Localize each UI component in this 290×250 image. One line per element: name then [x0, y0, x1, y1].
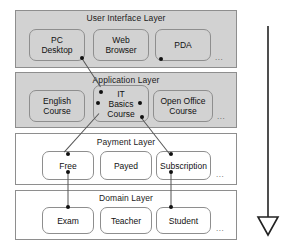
node-payed[interactable]: Payed — [100, 151, 152, 180]
ellipsis-domain-layer: ... — [216, 224, 224, 233]
node-web-browser[interactable]: Web Browser — [93, 29, 149, 61]
port-dot-exam — [66, 205, 70, 209]
port-dot-pda — [159, 57, 163, 61]
connector-subscription-to-student — [171, 173, 172, 207]
node-label-free: Free — [57, 161, 78, 171]
port-dot-pc-desktop — [80, 56, 84, 60]
node-open-office-course[interactable]: Open Office Course — [153, 90, 213, 122]
port-dot-free-bottom — [66, 170, 70, 174]
node-exam[interactable]: Exam — [42, 207, 94, 234]
node-label-exam: Exam — [55, 216, 81, 226]
port-dot-it-basics-top-left — [99, 90, 103, 94]
node-label-open-office-course: Open Office Course — [158, 96, 207, 116]
downward-direction-arrow — [250, 20, 290, 245]
node-student[interactable]: Student — [156, 207, 211, 234]
node-teacher[interactable]: Teacher — [100, 207, 152, 234]
layer-title-domain-layer: Domain Layer — [15, 193, 237, 203]
node-label-web-browser: Web Browser — [103, 35, 138, 55]
connector-free-to-exam — [68, 173, 69, 207]
architecture-diagram: User Interface Layer PC Desktop Web Brow… — [0, 0, 290, 250]
port-dot-student — [169, 205, 173, 209]
node-label-it-basics-course: IT Basics Course — [105, 89, 136, 119]
layer-title-payment-layer: Payment Layer — [15, 137, 237, 147]
port-dot-subscription-top — [169, 152, 173, 156]
port-dot-free-top — [66, 152, 70, 156]
node-subscription[interactable]: Subscription — [156, 151, 211, 180]
node-label-subscription: Subscription — [158, 161, 209, 171]
node-label-english-course: English Course — [41, 96, 73, 116]
port-dot-it-basics-bottom-right — [140, 115, 144, 119]
layer-title-user-interface-layer: User Interface Layer — [15, 13, 237, 23]
port-dot-it-basics-mid-left — [96, 101, 100, 105]
node-label-pda: PDA — [172, 40, 193, 50]
layer-title-application-layer: Application Layer — [15, 75, 237, 85]
port-dot-it-basics-mid-right — [138, 101, 142, 105]
ellipsis-user-interface-layer: ... — [215, 53, 223, 62]
port-dot-subscription-bottom — [169, 170, 173, 174]
node-pc-desktop[interactable]: PC Desktop — [29, 29, 85, 61]
node-label-teacher: Teacher — [109, 216, 143, 226]
ellipsis-application-layer: ... — [217, 112, 225, 121]
node-label-student: Student — [167, 216, 200, 226]
node-label-pc-desktop: PC Desktop — [39, 35, 74, 55]
ellipsis-payment-layer: ... — [216, 170, 224, 179]
node-label-payed: Payed — [112, 161, 140, 171]
node-pda[interactable]: PDA — [155, 29, 211, 61]
node-english-course[interactable]: English Course — [29, 90, 85, 122]
